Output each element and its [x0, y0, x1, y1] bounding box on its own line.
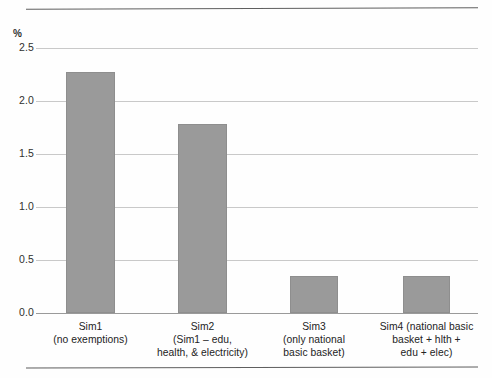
bar-chart-plot-area: % 2.52.01.51.00.50.0Sim1(no exemptions)S… — [0, 0, 492, 378]
x-axis-category-label: Sim4 (national basicbasket + hlth +edu +… — [347, 320, 492, 360]
bar — [66, 72, 115, 313]
gridline — [36, 48, 478, 49]
category-label-line: edu + elec) — [347, 346, 492, 359]
y-axis-tick-label: 1.5 — [8, 148, 34, 159]
category-label-line: Sim4 (national basic — [347, 320, 492, 333]
bar — [403, 276, 450, 313]
y-axis-tick-label: 2.0 — [8, 95, 34, 106]
bar — [290, 276, 338, 313]
category-label-line: basket + hlth + — [347, 333, 492, 346]
gridline — [36, 313, 478, 314]
bar — [178, 124, 227, 313]
y-axis-tick-label: 1.0 — [8, 201, 34, 212]
y-axis-tick-label: 2.5 — [8, 42, 34, 53]
y-axis-tick-label: 0.0 — [8, 307, 34, 318]
y-axis-tick-label: 0.5 — [8, 254, 34, 265]
y-axis-unit-label: % — [13, 28, 22, 39]
figure-container: % 2.52.01.51.00.50.0Sim1(no exemptions)S… — [0, 0, 492, 378]
